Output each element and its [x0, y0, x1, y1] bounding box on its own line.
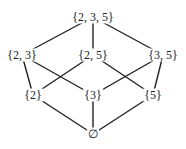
hasse-diagram: {2, 3, 5}{2, 3}{2, 5}{3, 5}{2}{3}{5}∅ — [0, 0, 186, 149]
node-n23: {2, 3} — [6, 49, 38, 62]
node-n2: {2} — [23, 89, 43, 102]
node-n25: {2, 5} — [77, 49, 109, 62]
node-n235: {2, 3, 5} — [71, 11, 115, 24]
node-n3: {3} — [83, 89, 103, 102]
node-n5: {5} — [143, 89, 163, 102]
node-nempty: ∅ — [87, 128, 99, 141]
node-n35: {3, 5} — [147, 49, 179, 62]
